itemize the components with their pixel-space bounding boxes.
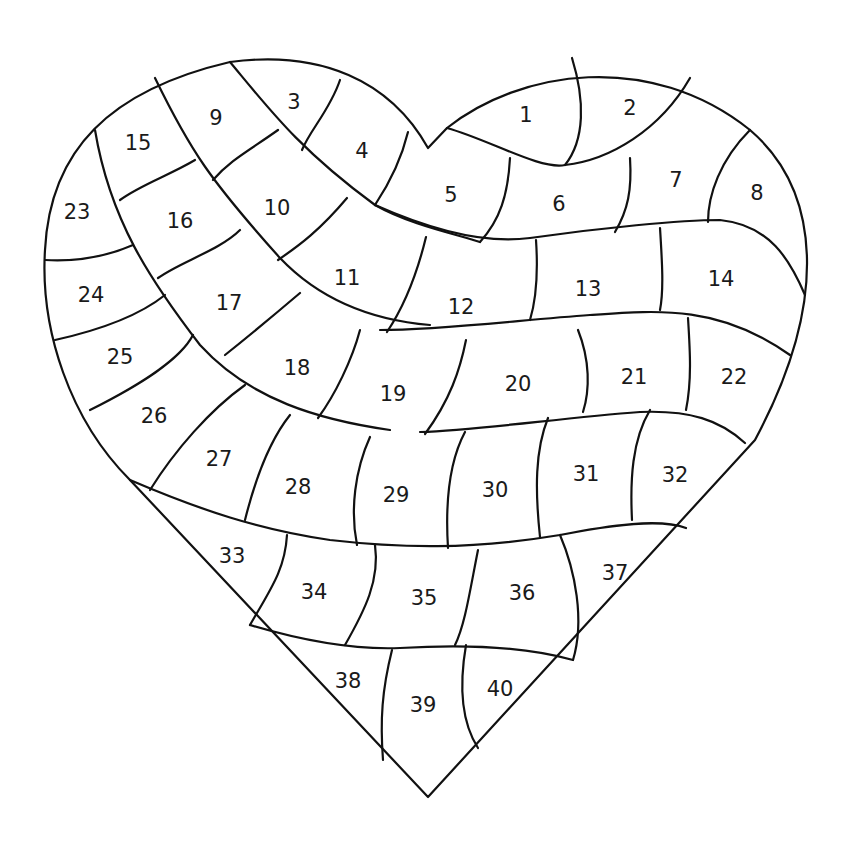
cell-number-5: 5 <box>444 183 457 207</box>
cell-number-10: 10 <box>264 196 291 220</box>
cell-number-34: 34 <box>301 580 328 604</box>
cell-number-4: 4 <box>355 139 368 163</box>
heart-outline-and-dividers <box>0 0 849 849</box>
cell-number-40: 40 <box>487 677 514 701</box>
cell-number-20: 20 <box>505 372 532 396</box>
cell-number-2: 2 <box>623 96 636 120</box>
heart-outline <box>44 59 807 797</box>
cell-number-11: 11 <box>334 266 361 290</box>
cell-number-31: 31 <box>573 462 600 486</box>
cell-number-9: 9 <box>209 106 222 130</box>
cell-number-33: 33 <box>219 544 246 568</box>
cell-number-32: 32 <box>662 463 689 487</box>
cell-number-24: 24 <box>78 283 105 307</box>
cell-number-1: 1 <box>519 103 532 127</box>
cell-number-22: 22 <box>721 365 748 389</box>
cell-number-7: 7 <box>669 168 682 192</box>
cell-number-3: 3 <box>287 90 300 114</box>
cell-number-30: 30 <box>482 478 509 502</box>
cell-number-19: 19 <box>380 382 407 406</box>
cell-number-36: 36 <box>509 581 536 605</box>
cell-number-17: 17 <box>216 291 243 315</box>
cell-number-16: 16 <box>167 209 194 233</box>
cell-number-18: 18 <box>284 356 311 380</box>
cell-number-13: 13 <box>575 277 602 301</box>
cell-number-23: 23 <box>64 200 91 224</box>
cell-number-27: 27 <box>206 447 233 471</box>
cell-number-14: 14 <box>708 267 735 291</box>
heart-board: 1234567891011121314151617181920212223242… <box>0 0 849 849</box>
cell-number-6: 6 <box>552 192 565 216</box>
cell-number-29: 29 <box>383 483 410 507</box>
cell-number-35: 35 <box>411 586 438 610</box>
cell-number-28: 28 <box>285 475 312 499</box>
cell-number-37: 37 <box>602 561 629 585</box>
cell-number-12: 12 <box>448 295 475 319</box>
cell-number-39: 39 <box>410 693 437 717</box>
cell-number-26: 26 <box>141 404 168 428</box>
cell-number-21: 21 <box>621 365 648 389</box>
cell-number-8: 8 <box>750 181 763 205</box>
cell-number-25: 25 <box>107 345 134 369</box>
cell-number-15: 15 <box>125 131 152 155</box>
cell-number-38: 38 <box>335 669 362 693</box>
